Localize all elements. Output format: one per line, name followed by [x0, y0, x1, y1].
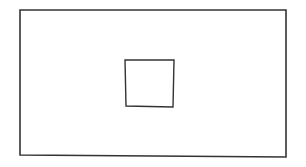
diagram-canvas — [0, 0, 306, 167]
inner-square — [125, 60, 174, 107]
diagram-svg — [0, 0, 306, 167]
outer-rectangle — [20, 10, 286, 157]
